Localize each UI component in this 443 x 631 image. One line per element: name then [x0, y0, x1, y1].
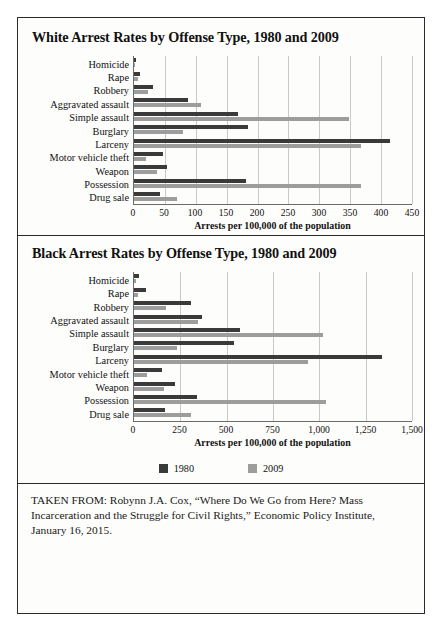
- category-label: Simple assault: [30, 328, 133, 341]
- x-tick-label: 500: [219, 424, 233, 435]
- chart-white-arrest-rates: White Arrest Rates by Offense Type, 1980…: [18, 18, 424, 235]
- category-label: Possession: [30, 395, 133, 408]
- x-axis-title-black: Arrests per 100,000 of the population: [133, 437, 412, 448]
- bar-gap: [134, 305, 412, 306]
- bar-gap: [134, 169, 412, 170]
- x-tick-label: 150: [219, 207, 233, 218]
- bar-rows-black: [134, 272, 412, 419]
- bar-row: [134, 190, 412, 203]
- bar-row: [134, 110, 412, 123]
- x-tick-label: 0: [131, 207, 136, 218]
- bar-row: [134, 326, 412, 339]
- bar-row: [134, 177, 412, 190]
- x-tick-label: 1,250: [355, 424, 377, 435]
- figure-card: White Arrest Rates by Offense Type, 1980…: [17, 17, 425, 614]
- category-label: Drug sale: [30, 192, 133, 205]
- bar-rows-white: [134, 56, 412, 203]
- category-labels-black: HomicideRapeRobberyAggravated assaultSim…: [30, 272, 133, 421]
- category-label: Robbery: [30, 85, 133, 98]
- x-tick-label: 350: [343, 207, 357, 218]
- legend-label-1980: 1980: [174, 463, 194, 474]
- category-label: Larceny: [30, 138, 133, 151]
- category-label: Burglary: [30, 341, 133, 354]
- x-tick-label: 1,000: [308, 424, 330, 435]
- bar-2009: [134, 130, 183, 134]
- bar-row: [134, 299, 412, 312]
- x-tick-label: 250: [172, 424, 186, 435]
- category-label: Burglary: [30, 125, 133, 138]
- bar-row: [134, 83, 412, 96]
- category-label: Weapon: [30, 165, 133, 178]
- x-tick-label: 450: [405, 207, 419, 218]
- bar-row: [134, 286, 412, 299]
- bar-2009: [134, 197, 177, 201]
- bar-2009: [134, 320, 198, 324]
- bar-2009: [134, 293, 138, 297]
- x-tick-label: 200: [250, 207, 264, 218]
- bar-row: [134, 56, 412, 69]
- bar-2009: [134, 157, 146, 161]
- x-axis-white: 050100150200250300350400450 Arrests per …: [30, 205, 412, 231]
- legend-item-1980: 1980: [159, 463, 194, 474]
- bar-row: [134, 69, 412, 82]
- bar-2009: [134, 346, 177, 350]
- bar-row: [134, 353, 412, 366]
- bar-2009: [134, 103, 201, 107]
- bar-2009: [134, 400, 326, 404]
- x-axis-title-white: Arrests per 100,000 of the population: [133, 220, 412, 231]
- axis-spacer: [30, 205, 133, 231]
- x-tick-label: 0: [131, 424, 136, 435]
- x-tick-label: 1,500: [401, 424, 423, 435]
- bar-2009: [134, 333, 323, 337]
- category-label: Possession: [30, 179, 133, 192]
- bar-gap: [134, 62, 412, 63]
- bar-row: [134, 366, 412, 379]
- legend-swatch-1980-icon: [159, 464, 168, 473]
- chart-black-arrest-rates: Black Arrest Rates by Offense Type, 1980…: [18, 236, 424, 451]
- bar-gap: [134, 76, 412, 77]
- x-axis-black: 02505007501,0001,2501,500 Arrests per 10…: [30, 422, 412, 448]
- legend-swatch-2009-icon: [248, 464, 257, 473]
- category-label: Aggravated assault: [30, 314, 133, 327]
- x-tick-label: 750: [265, 424, 279, 435]
- bar-row: [134, 272, 412, 285]
- category-label: Robbery: [30, 301, 133, 314]
- source-note: TAKEN FROM: Robynn J.A. Cox, “Where Do W…: [18, 484, 424, 546]
- plot-area-white: HomicideRapeRobberyAggravated assaultSim…: [30, 56, 412, 205]
- category-label: Larceny: [30, 355, 133, 368]
- bar-gap: [134, 278, 412, 279]
- category-label: Simple assault: [30, 112, 133, 125]
- category-labels-white: HomicideRapeRobberyAggravated assaultSim…: [30, 56, 133, 205]
- x-tick-label: 400: [374, 207, 388, 218]
- x-tick-label: 50: [159, 207, 169, 218]
- bar-gap: [134, 89, 412, 90]
- bar-2009: [134, 184, 361, 188]
- x-tick-label: 300: [312, 207, 326, 218]
- bar-gap: [134, 156, 412, 157]
- bar-row: [134, 96, 412, 109]
- legend-item-2009: 2009: [248, 463, 283, 474]
- x-tick-label: 250: [281, 207, 295, 218]
- bar-2009: [134, 387, 164, 391]
- bar-2009: [134, 144, 361, 148]
- bar-gap: [134, 292, 412, 293]
- category-label: Motor vehicle theft: [30, 368, 133, 381]
- bar-row: [134, 339, 412, 352]
- x-tick-labels-black: 02505007501,0001,2501,500: [133, 422, 412, 437]
- x-tick-label: 100: [188, 207, 202, 218]
- bar-row: [134, 163, 412, 176]
- category-label: Homicide: [30, 274, 133, 287]
- bar-row: [134, 312, 412, 325]
- bar-row: [134, 406, 412, 419]
- bars-area-black: [133, 272, 412, 421]
- bar-2009: [134, 279, 136, 283]
- x-tick-labels-white: 050100150200250300350400450: [133, 205, 412, 220]
- axis-spacer: [30, 422, 133, 448]
- category-label: Rape: [30, 288, 133, 301]
- bar-2009: [134, 306, 166, 310]
- bar-row: [134, 136, 412, 149]
- bar-2009: [134, 117, 349, 121]
- legend-label-2009: 2009: [263, 463, 283, 474]
- category-label: Weapon: [30, 381, 133, 394]
- bar-2009: [134, 63, 135, 67]
